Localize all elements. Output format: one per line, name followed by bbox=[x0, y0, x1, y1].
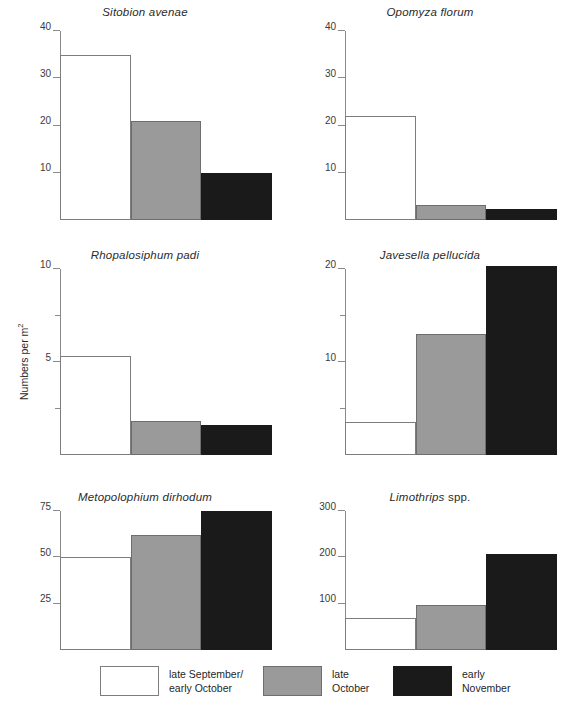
legend-swatch-black bbox=[393, 666, 452, 696]
y-axis-tick-label: 10 bbox=[40, 162, 51, 173]
y-axis-tick bbox=[53, 268, 60, 269]
panel-javesella-pellucida: Javesella pellucida 1020 bbox=[285, 240, 564, 480]
panel-rhopalosiphum-padi: Rhopalosiphum padi 510 bbox=[0, 240, 290, 480]
panel-title: Javesella pellucida bbox=[310, 249, 550, 261]
y-axis-tick bbox=[338, 268, 345, 269]
y-axis-tick-label: 5 bbox=[45, 351, 51, 362]
panel-title: Opomyza florum bbox=[310, 6, 550, 18]
y-axis-tick bbox=[338, 603, 345, 604]
bar-late-october bbox=[131, 421, 202, 455]
y-axis-tick-label: 25 bbox=[40, 593, 51, 604]
bar-late-september-early-october bbox=[345, 618, 416, 650]
panel-opomyza-florum: Opomyza florum 10203040 bbox=[285, 0, 564, 240]
legend-label: late September/ early October bbox=[169, 666, 243, 695]
y-axis-tick bbox=[53, 510, 60, 511]
panel-title: Sitobion avenae bbox=[20, 6, 270, 18]
y-axis-tick bbox=[338, 172, 345, 173]
y-axis-tick-label: 50 bbox=[40, 546, 51, 557]
legend-item-early-november: early November bbox=[393, 666, 510, 696]
bar-late-september-early-october bbox=[60, 557, 131, 650]
y-axis-minor-tick bbox=[340, 408, 345, 409]
y-axis-tick bbox=[53, 172, 60, 173]
bar-early-november bbox=[486, 554, 557, 650]
y-axis-tick-label: 200 bbox=[319, 546, 336, 557]
y-axis-tick-label: 10 bbox=[325, 351, 336, 362]
plot-area: 100200300 bbox=[345, 511, 557, 650]
bar-late-september-early-october bbox=[60, 356, 131, 455]
bar-late-october bbox=[131, 535, 202, 650]
panel-title: Rhopalosiphum padi bbox=[20, 249, 270, 261]
legend-swatch-gray bbox=[263, 666, 322, 696]
bar-late-september-early-october bbox=[345, 116, 416, 220]
y-axis-tick-label: 30 bbox=[40, 67, 51, 78]
panel-metopolophium-dirhodum: Metopolophium dirhodum 255075 bbox=[0, 480, 290, 666]
panel-title-genus: Limothrips bbox=[390, 491, 445, 503]
y-axis-tick-label: 20 bbox=[325, 258, 336, 269]
y-axis-tick-label: 30 bbox=[325, 67, 336, 78]
y-axis-tick-label: 100 bbox=[319, 593, 336, 604]
figure-six-panel-bar-charts: Numbers per m2 Sitobion avenae 10203040 … bbox=[0, 0, 564, 726]
y-axis-tick-label: 10 bbox=[325, 162, 336, 173]
bar-early-november bbox=[201, 173, 272, 220]
legend-label: early November bbox=[462, 666, 510, 695]
plot-area: 1020 bbox=[345, 269, 557, 455]
y-axis-tick bbox=[338, 125, 345, 126]
panel-sitobion-avenae: Sitobion avenae 10203040 bbox=[0, 0, 290, 240]
bar-early-november bbox=[201, 511, 272, 650]
y-axis-tick-label: 40 bbox=[40, 20, 51, 31]
y-axis-tick-label: 20 bbox=[325, 115, 336, 126]
bar-late-october bbox=[416, 334, 487, 455]
y-axis-minor-tick bbox=[55, 315, 60, 316]
y-axis-tick bbox=[53, 556, 60, 557]
y-axis-tick bbox=[53, 125, 60, 126]
bar-early-november bbox=[486, 209, 557, 220]
panel-limothrips-spp: Limothrips spp. 100200300 bbox=[285, 480, 564, 666]
y-axis-tick-label: 10 bbox=[40, 258, 51, 269]
y-axis-tick bbox=[338, 510, 345, 511]
legend-label: late October bbox=[332, 666, 369, 695]
panel-title: Metopolophium dirhodum bbox=[20, 491, 270, 503]
bar-late-october bbox=[131, 121, 202, 220]
plot-area: 10203040 bbox=[60, 31, 272, 220]
y-axis-tick-label: 300 bbox=[319, 500, 336, 511]
y-axis-tick-label: 75 bbox=[40, 500, 51, 511]
plot-area: 510 bbox=[60, 269, 272, 455]
y-axis-tick bbox=[53, 361, 60, 362]
legend-item-late-september-early-october: late September/ early October bbox=[100, 666, 243, 696]
y-axis-tick bbox=[53, 30, 60, 31]
legend-item-late-october: late October bbox=[263, 666, 369, 696]
bar-early-november bbox=[201, 425, 272, 455]
bar-late-october bbox=[416, 605, 487, 650]
y-axis-tick bbox=[338, 30, 345, 31]
y-axis-tick bbox=[53, 603, 60, 604]
panel-title: Limothrips spp. bbox=[310, 491, 550, 503]
y-axis-tick bbox=[338, 77, 345, 78]
bar-late-october bbox=[416, 205, 487, 220]
bar-late-september-early-october bbox=[60, 55, 131, 220]
plot-area: 10203040 bbox=[345, 31, 557, 220]
y-axis-tick-label: 20 bbox=[40, 115, 51, 126]
y-axis-minor-tick bbox=[340, 315, 345, 316]
y-axis-tick bbox=[338, 556, 345, 557]
legend-swatch-white bbox=[100, 666, 159, 696]
bar-early-november bbox=[486, 266, 557, 455]
y-axis-tick bbox=[53, 77, 60, 78]
bar-late-september-early-october bbox=[345, 422, 416, 455]
legend: late September/ early October late Octob… bbox=[0, 666, 564, 718]
panel-title-qualifier: spp. bbox=[445, 491, 471, 503]
y-axis-tick bbox=[338, 361, 345, 362]
y-axis-tick-label: 40 bbox=[325, 20, 336, 31]
plot-area: 255075 bbox=[60, 511, 272, 650]
